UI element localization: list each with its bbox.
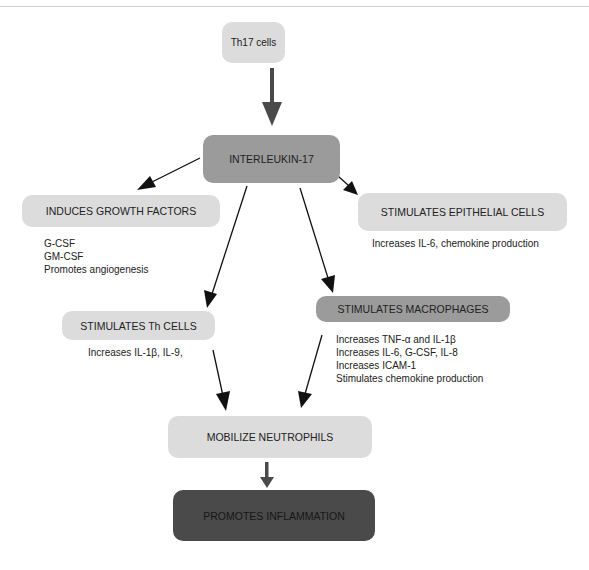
arrow-neutrophils-to-inflammation [260, 462, 274, 488]
arrow-macrophages-to-neutrophils [298, 335, 322, 408]
arrow-il17-to-macrophages [300, 188, 335, 293]
arrows-layer [0, 0, 589, 570]
note-line: Promotes angiogenesis [44, 263, 149, 276]
node-label: PROMOTES INFLAMMATION [203, 510, 345, 522]
note-line: G-CSF [44, 237, 149, 250]
note-line: Increases TNF-α and IL-1β [336, 333, 483, 346]
node-label: Th17 cells [231, 37, 277, 48]
node-induces-growth-factors: INDUCES GROWTH FACTORS [22, 195, 220, 227]
macrophage-notes: Increases TNF-α and IL-1β Increases IL-6… [336, 333, 483, 385]
node-stimulates-macrophages: STIMULATES MACROPHAGES [316, 296, 510, 322]
node-label: STIMULATES EPITHELIAL CELLS [381, 206, 544, 218]
note-line: Increases IL-6, G-CSF, IL-8 [336, 346, 483, 359]
node-label: STIMULATES Th CELLS [80, 320, 196, 332]
note-line: Increases IL-6, chemokine production [372, 237, 539, 250]
note-line: Increases IL-1β, IL-9, [88, 346, 183, 359]
note-line: Increases ICAM-1 [336, 359, 483, 372]
node-mobilize-neutrophils: MOBILIZE NEUTROPHILS [168, 416, 372, 458]
node-th17-cells: Th17 cells [222, 22, 285, 63]
node-stimulates-th-cells: STIMULATES Th CELLS [62, 311, 215, 340]
arrow-thcells-to-neutrophils [213, 350, 230, 411]
th-cells-notes: Increases IL-1β, IL-9, [88, 346, 183, 359]
arrow-th17-to-il17 [262, 68, 282, 126]
node-promotes-inflammation: PROMOTES INFLAMMATION [173, 490, 375, 541]
node-interleukin-17: INTERLEUKIN-17 [203, 135, 340, 183]
arrow-il17-to-epithelial [338, 176, 358, 195]
note-line: Stimulates chemokine production [336, 372, 483, 385]
node-label: INDUCES GROWTH FACTORS [46, 205, 196, 217]
arrow-il17-to-growth [137, 158, 200, 190]
growth-factor-notes: G-CSF GM-CSF Promotes angiogenesis [44, 237, 149, 276]
node-stimulates-epithelial-cells: STIMULATES EPITHELIAL CELLS [358, 193, 567, 231]
epithelial-notes: Increases IL-6, chemokine production [372, 237, 539, 250]
note-line: GM-CSF [44, 250, 149, 263]
node-label: MOBILIZE NEUTROPHILS [207, 431, 334, 443]
node-label: INTERLEUKIN-17 [229, 153, 314, 165]
node-label: STIMULATES MACROPHAGES [338, 303, 489, 315]
